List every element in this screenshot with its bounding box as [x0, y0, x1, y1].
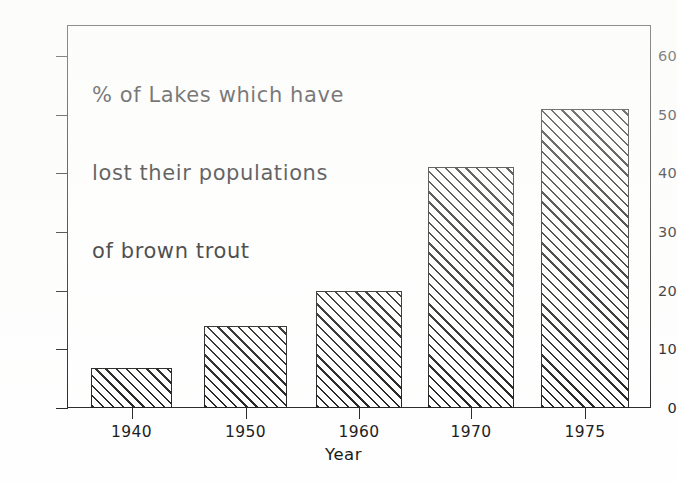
y-tick-mark-10: [56, 349, 68, 350]
x-tick-label-1970: 1970: [426, 423, 516, 441]
x-tick-label-1975: 1975: [540, 423, 630, 441]
y-tick-mark-20: [56, 291, 68, 292]
x-tick-label-1940: 1940: [87, 423, 177, 441]
y-tick-label-0: 0: [633, 400, 677, 416]
y-tick-label-50: 50: [633, 107, 677, 123]
chart-figure: % of Lakes which have lost their populat…: [0, 0, 677, 482]
y-tick-label-20: 20: [633, 283, 677, 299]
x-tick-mark-1970: [471, 408, 472, 419]
y-tick-label-10: 10: [633, 341, 677, 357]
y-tick-mark-60: [56, 56, 68, 57]
bar-1960: [316, 291, 402, 408]
x-tick-label-1950: 1950: [201, 423, 291, 441]
x-tick-mark-1940: [132, 408, 133, 419]
bar-1970: [428, 167, 514, 408]
y-tick-mark-30: [56, 232, 68, 233]
bar-1975: [541, 109, 629, 408]
chart-title-line-1: % of Lakes which have: [92, 82, 552, 108]
y-tick-mark-0: [56, 408, 68, 409]
x-tick-mark-1975: [585, 408, 586, 419]
x-axis-title: Year: [0, 445, 677, 464]
y-tick-mark-40: [56, 173, 68, 174]
bar-1950: [204, 326, 287, 408]
y-tick-label-60: 60: [633, 48, 677, 64]
y-tick-label-30: 30: [633, 224, 677, 240]
y-tick-label-40: 40: [633, 165, 677, 181]
bar-1940: [91, 368, 172, 408]
x-tick-mark-1960: [359, 408, 360, 419]
x-tick-label-1960: 1960: [314, 423, 404, 441]
x-tick-mark-1950: [246, 408, 247, 419]
y-tick-mark-50: [56, 115, 68, 116]
